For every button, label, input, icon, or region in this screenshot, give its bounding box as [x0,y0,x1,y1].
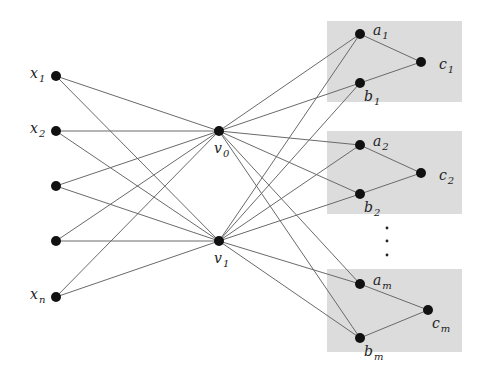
node-x4 [51,236,61,246]
node-cm [423,305,433,315]
label-x2: x2 [30,120,45,139]
label-v1: v1 [214,250,229,269]
ellipsis-dot [386,254,389,257]
node-x2 [51,126,61,136]
gadget-m-box [327,269,462,352]
graph-diagram: x1x2xnv0v1a1b1c1a2b2c2ambmcm [0,0,484,370]
node-xn [51,292,61,302]
node-c1 [416,57,426,67]
ellipsis-dot [386,240,389,243]
node-c2 [416,168,426,178]
node-v1 [214,236,224,246]
label-x1: x1 [30,65,45,84]
node-b2 [355,189,365,199]
edge-v1-am [219,241,360,284]
node-am [355,279,365,289]
node-a2 [355,140,365,150]
edge-x1-v0 [56,76,219,131]
node-bm [355,333,365,343]
edge-x3-v0 [56,131,219,186]
edge-xn-v1 [56,241,219,297]
vertical-ellipsis [386,227,389,257]
node-x3 [51,181,61,191]
node-a1 [355,29,365,39]
ellipsis-dot [386,227,389,230]
label-xn: xn [30,286,45,305]
edge-xn-v0 [56,131,219,297]
node-b1 [355,78,365,88]
node-v0 [214,126,224,136]
node-x1 [51,71,61,81]
